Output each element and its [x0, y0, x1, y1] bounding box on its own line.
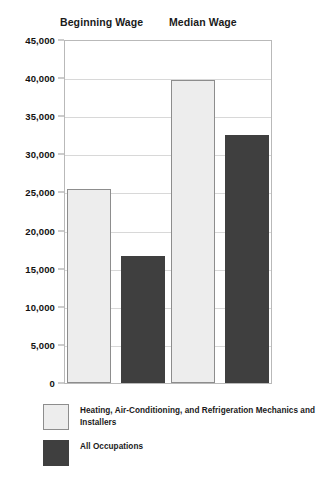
y-axis-tick-label: 10,000 — [25, 301, 55, 312]
bar — [225, 135, 269, 383]
legend-item-all-occupations: All Occupations — [43, 440, 333, 466]
y-axis-tick-label: 40,000 — [25, 73, 55, 84]
y-axis-tick-label: 30,000 — [25, 149, 55, 160]
group-header-row: Beginning Wage Median Wage — [64, 16, 272, 36]
legend-label-heating: Heating, Air-Conditioning, and Refrigera… — [80, 404, 328, 429]
legend-item-heating: Heating, Air-Conditioning, and Refrigera… — [43, 404, 333, 430]
y-axis-tick-label: 15,000 — [25, 263, 55, 274]
legend-label-all-occupations: All Occupations — [80, 440, 143, 453]
legend-swatch-icon-heating — [43, 404, 69, 430]
y-axis-tick-label: 45,000 — [25, 35, 55, 46]
legend-swatch-icon-all-occupations — [43, 440, 69, 466]
y-axis-tick-label: 25,000 — [25, 187, 55, 198]
chart-legend: Heating, Air-Conditioning, and Refrigera… — [43, 404, 333, 476]
bar-chart: Beginning Wage Median Wage 45,00040,0003… — [0, 0, 336, 484]
bar-series-container — [64, 40, 272, 384]
y-axis-tick-label: 35,000 — [25, 111, 55, 122]
y-axis-tick-label: 0 — [50, 378, 55, 389]
group-header-median-wage: Median Wage — [169, 16, 237, 28]
y-axis-tick-label: 20,000 — [25, 225, 55, 236]
y-axis: 45,00040,00035,00030,00025,00020,00015,0… — [0, 40, 64, 384]
bar — [171, 80, 215, 383]
bar — [121, 256, 165, 383]
bar — [67, 189, 111, 383]
group-header-beginning-wage: Beginning Wage — [60, 16, 143, 28]
y-axis-tick-label: 5,000 — [31, 339, 55, 350]
